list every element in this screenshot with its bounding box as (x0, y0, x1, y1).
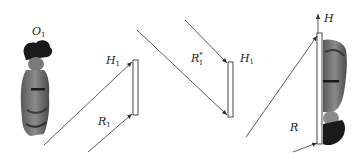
reference-wave-r1-ray (88, 114, 132, 152)
label-r1-conjugate: R*1 (190, 51, 203, 67)
label-h: H (323, 12, 334, 25)
real-image-inverted-figurine (323, 39, 347, 145)
holography-diagram: O1 H1 R1 R*1 H1 H R (0, 0, 363, 159)
label-h1: H1 (105, 54, 120, 68)
hologram-plate-h (317, 33, 322, 144)
hologram-plate-h1 (133, 60, 138, 115)
label-h1-reconstruction: H1 (239, 52, 254, 66)
label-o1: O1 (32, 25, 46, 39)
hologram-plate-h1-reconstruction (228, 62, 233, 117)
label-r1: R1 (97, 115, 111, 129)
label-r: R (289, 121, 298, 134)
hologram-wave-ray (246, 36, 317, 137)
reference-wave-r-ray (293, 143, 317, 152)
object-figurine-o1 (21, 40, 52, 136)
object-wave-ray (44, 62, 132, 145)
conjugate-ray-lower (137, 30, 227, 115)
